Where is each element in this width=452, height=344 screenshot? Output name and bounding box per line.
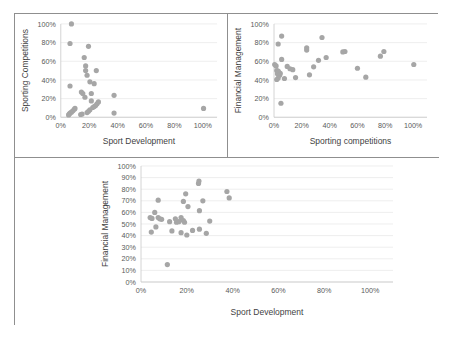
data-point bbox=[207, 219, 212, 224]
data-point bbox=[176, 219, 181, 224]
data-point bbox=[311, 64, 316, 69]
y-tick-label: 80% bbox=[41, 39, 56, 47]
data-point bbox=[197, 208, 202, 213]
chart-2: 0%20%40%60%80%100%0%20%40%60%80%100%Spor… bbox=[228, 14, 439, 157]
data-point bbox=[153, 224, 158, 229]
data-point bbox=[274, 77, 279, 82]
y-tick-label: 80% bbox=[122, 185, 137, 194]
data-point bbox=[66, 112, 71, 117]
data-point bbox=[381, 49, 386, 54]
y-tick-label: 80% bbox=[255, 39, 270, 47]
data-point bbox=[69, 21, 74, 26]
chart-1: 0%20%40%60%80%100%0%20%40%60%80%100%Spor… bbox=[15, 14, 227, 157]
y-tick-label: 100% bbox=[38, 21, 57, 29]
y-tick-label: 10% bbox=[122, 266, 137, 275]
data-points bbox=[66, 21, 206, 117]
y-tick-label: 20% bbox=[122, 254, 137, 263]
x-tick-label: 20% bbox=[295, 122, 310, 130]
data-point bbox=[156, 198, 161, 203]
x-tick-label: 20% bbox=[180, 286, 195, 295]
data-point bbox=[67, 83, 72, 88]
x-tick-label: 0% bbox=[136, 286, 147, 295]
y-axis-title: Financial Management bbox=[100, 180, 110, 267]
data-point bbox=[178, 230, 183, 235]
data-point bbox=[282, 76, 287, 81]
axis-lines bbox=[274, 24, 427, 117]
data-point bbox=[165, 262, 170, 267]
x-axis-tick-labels: 0%20%40%60%80%100% bbox=[136, 286, 380, 295]
data-point bbox=[276, 41, 281, 46]
data-point bbox=[89, 98, 94, 103]
data-point bbox=[183, 191, 188, 196]
y-tick-label: 60% bbox=[41, 58, 56, 66]
data-point bbox=[411, 62, 416, 67]
scatter-panel-sport-dev-vs-financial: 0%10%20%30%40%50%60%70%80%90%100%0%20%40… bbox=[15, 158, 439, 326]
data-point bbox=[184, 232, 189, 237]
data-point bbox=[273, 63, 278, 68]
y-tick-label: 90% bbox=[122, 173, 137, 182]
data-point bbox=[152, 210, 157, 215]
data-point bbox=[169, 228, 174, 233]
data-point bbox=[111, 110, 116, 115]
x-tick-label: 60% bbox=[271, 286, 286, 295]
y-axis-tick-labels: 0%10%20%30%40%50%60%70%80%90%100% bbox=[118, 162, 137, 287]
x-tick-label: 0% bbox=[269, 122, 280, 130]
x-axis-tick-labels: 0%20%40%60%80%100% bbox=[56, 122, 213, 130]
data-point bbox=[94, 68, 99, 73]
y-tick-label: 40% bbox=[122, 231, 137, 240]
x-tick-label: 40% bbox=[110, 122, 125, 130]
data-point bbox=[204, 231, 209, 236]
y-tick-label: 100% bbox=[118, 162, 137, 171]
x-axis-tick-labels: 0%20%40%60%80%100% bbox=[269, 122, 423, 130]
data-point bbox=[319, 35, 324, 40]
data-point bbox=[82, 95, 87, 100]
data-point bbox=[82, 55, 87, 60]
x-tick-label: 60% bbox=[139, 122, 154, 130]
x-tick-label: 80% bbox=[317, 286, 332, 295]
y-tick-label: 60% bbox=[255, 58, 270, 66]
chart-3: 0%10%20%30%40%50%60%70%80%90%100%0%20%40… bbox=[15, 158, 439, 326]
data-point bbox=[149, 230, 154, 235]
x-tick-label: 100% bbox=[194, 122, 213, 130]
data-point bbox=[78, 112, 83, 117]
y-axis-tick-labels: 0%20%40%60%80%100% bbox=[251, 21, 270, 122]
x-axis-title: Sport Development bbox=[103, 136, 176, 146]
data-point bbox=[149, 216, 154, 221]
scatter-panel-sport-dev-vs-competitions: 0%20%40%60%80%100%0%20%40%60%80%100%Spor… bbox=[15, 14, 228, 158]
x-tick-label: 60% bbox=[350, 122, 365, 130]
data-points bbox=[148, 178, 232, 267]
data-point bbox=[278, 101, 283, 106]
data-point bbox=[190, 228, 195, 233]
data-point bbox=[111, 93, 116, 98]
y-tick-label: 40% bbox=[41, 77, 56, 85]
data-point bbox=[224, 189, 229, 194]
x-tick-label: 40% bbox=[225, 286, 240, 295]
data-point bbox=[197, 227, 202, 232]
y-axis-tick-labels: 0%20%40%60%80%100% bbox=[38, 21, 57, 122]
x-tick-label: 40% bbox=[322, 122, 337, 130]
data-point bbox=[279, 57, 284, 62]
y-tick-label: 0% bbox=[45, 114, 56, 122]
data-point bbox=[167, 219, 172, 224]
x-axis-title: Sport Development bbox=[231, 307, 304, 317]
data-point bbox=[89, 91, 94, 96]
data-point bbox=[84, 110, 89, 115]
y-axis-title: Sporting Competitions bbox=[20, 29, 30, 112]
data-point bbox=[181, 199, 186, 204]
data-point bbox=[200, 198, 205, 203]
gridlines bbox=[274, 24, 427, 117]
data-point bbox=[92, 81, 97, 86]
y-tick-label: 60% bbox=[122, 208, 137, 217]
x-tick-label: 0% bbox=[56, 122, 67, 130]
y-axis-title: Financial Management bbox=[233, 27, 243, 113]
y-tick-label: 100% bbox=[251, 21, 270, 29]
data-point bbox=[324, 55, 329, 60]
data-point bbox=[182, 220, 187, 225]
x-tick-label: 20% bbox=[82, 122, 97, 130]
data-point bbox=[307, 72, 312, 77]
data-point bbox=[293, 75, 298, 80]
data-point bbox=[363, 75, 368, 80]
data-point bbox=[316, 58, 321, 63]
data-point bbox=[67, 41, 72, 46]
y-tick-label: 70% bbox=[122, 196, 137, 205]
